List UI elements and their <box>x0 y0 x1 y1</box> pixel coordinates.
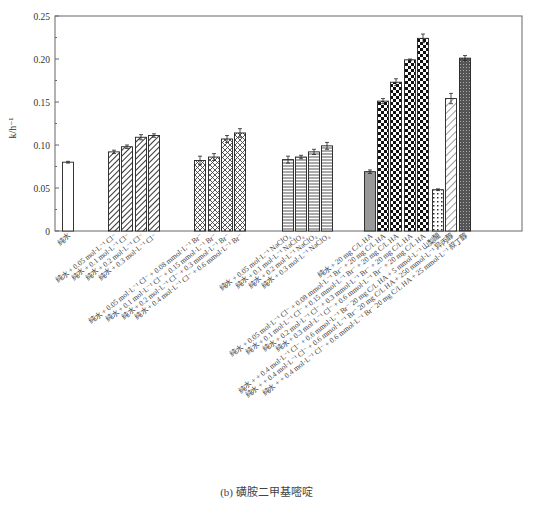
bar <box>209 154 220 231</box>
bar <box>391 79 402 231</box>
bar <box>136 135 147 231</box>
y-tick-label: 0.10 <box>33 141 50 151</box>
bar <box>309 149 320 231</box>
bar <box>446 93 457 231</box>
bar <box>109 150 120 231</box>
bar <box>405 59 416 231</box>
y-tick-label: 0.25 <box>33 12 50 22</box>
bars <box>63 34 471 231</box>
x-tick-label: 纯水 <box>55 230 73 247</box>
bar <box>460 56 471 231</box>
y-tick-label: 0.05 <box>33 184 50 194</box>
bar <box>296 155 307 231</box>
bar <box>283 156 294 231</box>
bar <box>195 156 206 231</box>
y-tick-label: 0.15 <box>33 98 50 108</box>
bar <box>365 170 376 231</box>
y-tick-label: 0 <box>45 227 50 237</box>
bar-chart: 00.050.100.150.200.25 纯水纯水 + 0.05 mol·L⁻… <box>0 0 533 507</box>
y-tick-label: 0.20 <box>33 55 50 65</box>
bar <box>122 145 133 231</box>
bar <box>149 134 160 231</box>
x-axis-labels: 纯水纯水 + 0.05 mol·L⁻¹ Cl⁻纯水 + 0.1 mol·L⁻¹ … <box>53 230 470 400</box>
figure-caption: (b) 磺胺二甲基嘧啶 <box>0 483 533 499</box>
bar <box>433 189 444 231</box>
bar <box>222 136 233 231</box>
y-axis-label: k/h⁻¹ <box>7 117 18 138</box>
bar <box>322 142 333 231</box>
bar <box>418 34 429 231</box>
bar <box>235 129 246 231</box>
bar <box>378 99 389 231</box>
bar <box>63 161 74 231</box>
